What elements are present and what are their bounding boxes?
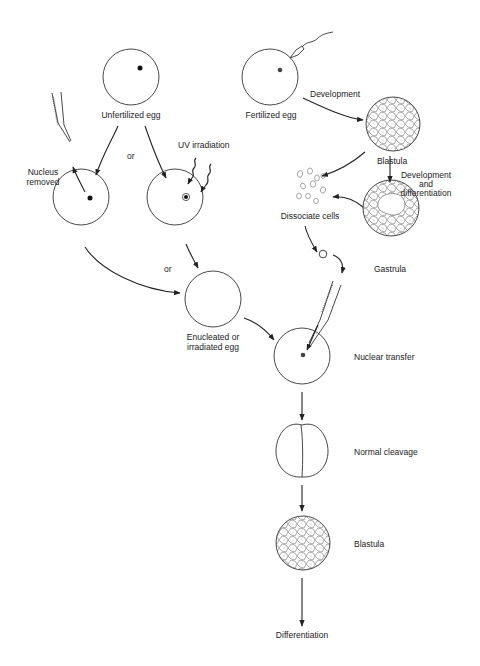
label-blastula-top: Blastula	[377, 156, 407, 166]
blastula-top	[366, 97, 420, 151]
label-nuclear-transfer: Nuclear transfer	[354, 352, 414, 362]
label-removed: removed	[26, 177, 59, 187]
enucleation-pipette	[52, 92, 71, 142]
label-irradiated-egg: irradiated egg	[187, 342, 239, 352]
to-uv-arrow	[145, 126, 166, 178]
label-or-middle: or	[164, 264, 172, 274]
nucleus-removed-egg	[53, 167, 109, 225]
label-nucleus: Nucleus	[28, 167, 59, 177]
label-or-top: or	[127, 151, 135, 161]
sperm-icon	[290, 32, 333, 58]
label-gastrula: Gastrula	[374, 264, 406, 274]
label-blastula-bottom: Blastula	[354, 539, 384, 549]
blastula-to-dissociate-arrow	[322, 152, 365, 176]
enucleated-to-transfer-arrow	[244, 318, 274, 340]
label-normal-cleavage: Normal cleavage	[354, 447, 418, 457]
dissociate-to-cell-arrow	[305, 226, 317, 252]
uv-irradiated-egg	[147, 158, 211, 225]
enucleated-egg	[185, 271, 241, 327]
development-arrow	[303, 98, 363, 120]
injection-pipette	[307, 281, 341, 350]
uv-rays-icon	[188, 158, 211, 192]
cell-to-pipette-arrow	[333, 255, 343, 273]
label-enucleated: Enucleated or	[187, 332, 239, 342]
dissociated-cells	[296, 168, 326, 204]
label-uv-irradiation: UV irradiation	[178, 140, 230, 150]
uv-to-enucleated-arrow	[186, 244, 198, 268]
label-differentiation: Differentiation	[276, 630, 328, 640]
label-dissociate-cells: Dissociate cells	[281, 211, 340, 221]
nuclear-transfer-egg	[274, 328, 330, 384]
nuclear-transfer-diagram	[0, 0, 480, 666]
single-donor-cell	[319, 250, 327, 258]
unfertilized-egg	[103, 49, 159, 105]
label-differentiation-2: differentiation	[401, 188, 452, 198]
blastula-bottom	[276, 516, 330, 570]
gastrula-to-dissociate-arrow	[333, 197, 363, 207]
to-nucleus-removed-arrow	[96, 126, 118, 175]
label-development: Development	[310, 89, 360, 99]
two-cell-embryo	[276, 424, 328, 477]
label-unfertilized-egg: Unfertilized egg	[101, 110, 160, 120]
label-fertilized-egg: Fertilized egg	[245, 110, 296, 120]
